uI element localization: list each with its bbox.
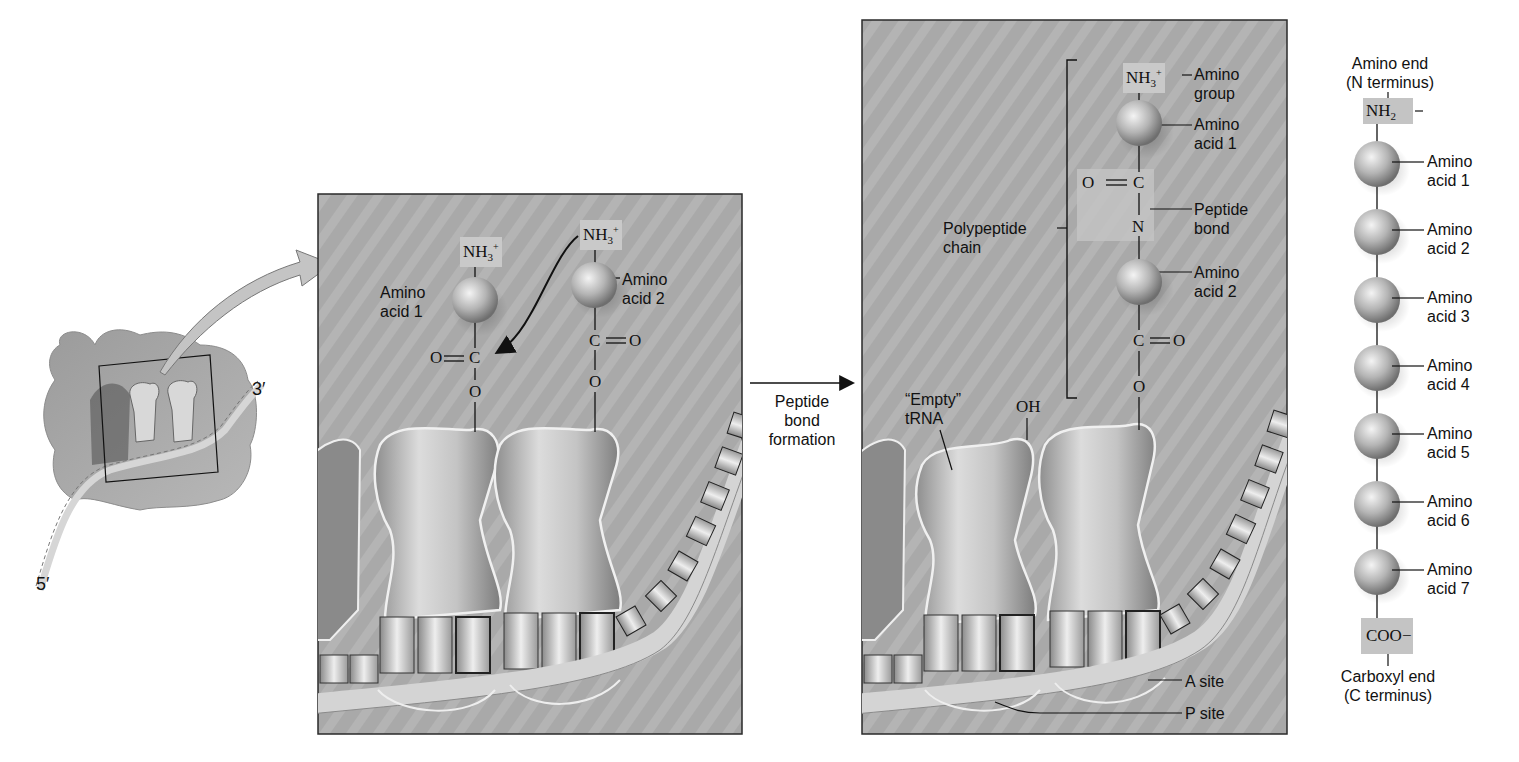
chain-amino-acid-1-sphere: [1116, 100, 1162, 146]
chain-aa2-label: Aminoacid 2: [1194, 263, 1239, 301]
aa1-amino-group: NH3+: [460, 237, 502, 267]
chain-residue-label: Aminoacid 4: [1427, 356, 1472, 394]
a-site-label: A site: [1185, 672, 1224, 691]
chain-residue-sphere: [1354, 413, 1400, 459]
chain-carboxyl-oxygen: O: [1173, 332, 1185, 350]
peptide-bond-carbon: C: [1133, 174, 1144, 192]
aa1-carbonyl-oxygen: O: [430, 349, 442, 367]
panel-before-bond: [300, 194, 760, 734]
chain-residue-label: Aminoacid 6: [1427, 492, 1472, 530]
p-site-label: P site: [1185, 704, 1225, 723]
amino-acid-2-sphere: [571, 262, 617, 308]
chain-residue-label: Aminoacid 7: [1427, 560, 1472, 598]
aa1-label: Aminoacid 1: [380, 283, 425, 321]
amino-group-label: Aminogroup: [1194, 65, 1239, 103]
diagram-canvas: [0, 0, 1519, 762]
peptide-bond-label: Peptidebond: [1194, 200, 1248, 238]
aa1-ester-oxygen: O: [469, 383, 481, 401]
aa2-ester-oxygen: O: [589, 373, 601, 391]
chain-residue-sphere: [1354, 549, 1400, 595]
chain-residue-label: Aminoacid 1: [1427, 152, 1472, 190]
polypeptide-chain-schematic: [1354, 92, 1424, 666]
n-terminus-formula: NH2: [1366, 102, 1396, 125]
polypeptide-chain-label: Polypeptidechain: [943, 219, 1027, 257]
aa2-carbonyl-oxygen: O: [629, 332, 641, 350]
amino-end-label: Amino end(N terminus): [1330, 54, 1450, 92]
aa2-label: Aminoacid 2: [622, 270, 667, 308]
c-terminus-formula: COO−: [1366, 627, 1411, 645]
chain-residue-sphere: [1354, 345, 1400, 391]
carboxyl-end-label: Carboxyl end(C terminus): [1318, 667, 1458, 705]
chain-residue-sphere: [1354, 277, 1400, 323]
mrna-5-prime-label: 5′: [36, 575, 49, 594]
aa2-carbon: C: [589, 332, 600, 350]
aa2-amino-group: NH3+: [580, 220, 622, 250]
chain-amino-group-formula: NH3+: [1123, 63, 1165, 93]
overview-ribosome: [36, 250, 332, 590]
chain-residue-label: Aminoacid 5: [1427, 424, 1472, 462]
empty-trna-label: “Empty”tRNA: [905, 390, 961, 428]
chain-residue-label: Aminoacid 3: [1427, 288, 1472, 326]
chain-amino-acid-2-sphere: [1116, 259, 1162, 305]
chain-residue-label: Aminoacid 2: [1427, 220, 1472, 258]
mrna-3-prime-label: 3′: [252, 380, 265, 399]
chain-residue-sphere: [1354, 481, 1400, 527]
amino-acid-1-sphere: [452, 277, 498, 323]
chain-residue-sphere: [1354, 141, 1400, 187]
peptide-bond-oxygen: O: [1082, 174, 1094, 192]
hydroxyl-group: OH: [1016, 398, 1041, 416]
chain-aa1-label: Aminoacid 1: [1194, 115, 1239, 153]
chain-carboxyl-carbon: C: [1133, 332, 1144, 350]
aa1-carbon: C: [469, 349, 480, 367]
chain-ester-oxygen: O: [1133, 378, 1145, 396]
chain-residue-sphere: [1354, 209, 1400, 255]
peptide-bond-nitrogen: N: [1132, 218, 1144, 236]
transition-label: Peptide bond formation: [752, 392, 852, 449]
